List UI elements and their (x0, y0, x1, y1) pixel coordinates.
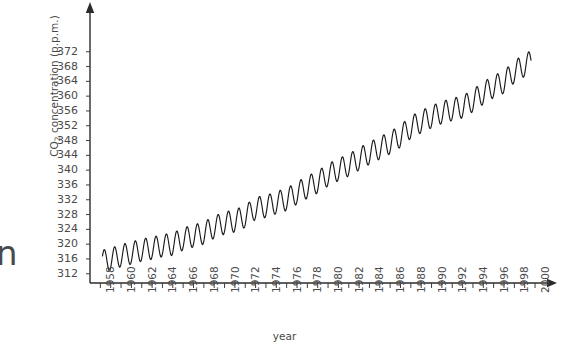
y-axis-tick-label: 364 (38, 75, 78, 86)
y-axis-tick-label: 332 (38, 194, 78, 205)
y-axis-tick-label: 356 (38, 105, 78, 116)
x-axis-tick-label: 1968 (209, 266, 220, 293)
y-axis-tick-label: 344 (38, 149, 78, 160)
x-axis-tick-label: 1964 (167, 266, 178, 293)
x-axis-tick-label: 2000 (540, 266, 551, 293)
x-axis-tick-label: 1988 (416, 266, 427, 293)
x-axis-tick-label: 1980 (333, 266, 344, 293)
x-axis-tick-label: 1962 (147, 266, 158, 293)
x-axis-tick-label: 1984 (374, 266, 385, 293)
co2-series-line (102, 52, 531, 271)
y-axis-tick-label: 328 (38, 209, 78, 220)
x-axis-tick-label: 1978 (312, 266, 323, 293)
chart-svg (0, 0, 569, 353)
y-axis-tick-label: 324 (38, 223, 78, 234)
x-axis-tick-label: 1976 (292, 266, 303, 293)
x-axis-tick-label: 1974 (271, 266, 282, 293)
x-axis-tick-label: 1990 (437, 266, 448, 293)
figure-canvas: n CO2 concentration (p.p.m.) year 312316… (0, 0, 569, 353)
y-axis-tick-label: 312 (38, 268, 78, 279)
x-axis-tick-label: 1992 (457, 266, 468, 293)
y-axis-tick-label: 368 (38, 61, 78, 72)
x-axis-tick-label: 1958 (105, 266, 116, 293)
y-axis-tick-label: 352 (38, 120, 78, 131)
y-axis-arrowhead (86, 2, 94, 13)
x-axis-tick-label: 1960 (126, 266, 137, 293)
y-axis-tick-label: 372 (38, 46, 78, 57)
y-axis-tick-label: 348 (38, 135, 78, 146)
x-axis-tick-label: 1986 (395, 266, 406, 293)
x-axis-tick-label: 1998 (519, 266, 530, 293)
axes-group (86, 2, 557, 287)
x-axis-tick-label: 1972 (250, 266, 261, 293)
y-axis-tick-label: 320 (38, 238, 78, 249)
x-axis-tick-label: 1996 (499, 266, 510, 293)
ticks-group (86, 52, 535, 288)
x-axis-tick-label: 1994 (478, 266, 489, 293)
x-axis-tick-label: 1970 (230, 266, 241, 293)
x-axis-tick-label: 1982 (354, 266, 365, 293)
y-axis-tick-label: 340 (38, 164, 78, 175)
y-axis-tick-label: 336 (38, 179, 78, 190)
y-axis-tick-label: 316 (38, 253, 78, 264)
x-axis-tick-label: 1966 (188, 266, 199, 293)
y-axis-tick-label: 360 (38, 90, 78, 101)
